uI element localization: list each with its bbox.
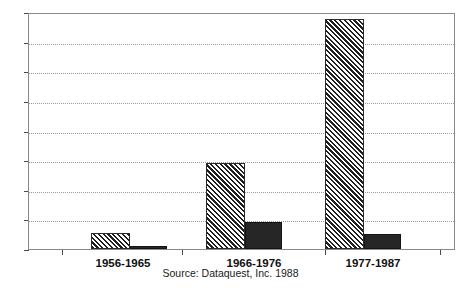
bar-hatched-1956-1965 — [91, 233, 130, 249]
xtick-mark-left — [62, 250, 63, 255]
bar-chart: 160 140 120 100 80 60 40 20 0 1956-196 — [0, 0, 461, 292]
gridline-120 — [29, 73, 454, 74]
bar-hatched-1977-1987 — [325, 19, 364, 249]
gridline-140 — [29, 44, 454, 45]
gridline-100 — [29, 103, 454, 104]
ytick-mark-0 — [24, 250, 29, 251]
xtick-mark-right — [440, 250, 441, 255]
xtick-mark-sep-2 — [325, 250, 326, 255]
source-note: Source: Dataquest, Inc. 1988 — [0, 268, 461, 279]
plot-area — [28, 13, 455, 250]
bar-hatched-1966-1976 — [206, 163, 245, 249]
bar-solid-1956-1965 — [130, 246, 167, 249]
bar-solid-1977-1987 — [364, 234, 401, 249]
xtick-mark-sep-1 — [182, 250, 183, 255]
gridline-80 — [29, 133, 454, 134]
bar-solid-1966-1976 — [245, 222, 282, 249]
